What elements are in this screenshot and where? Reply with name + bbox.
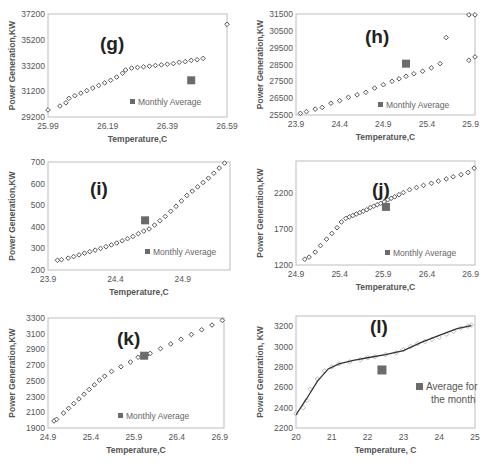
average-marker bbox=[141, 216, 149, 224]
x-tick-label: 24.9 bbox=[288, 269, 305, 279]
chart-panel-i: 20030040050060070023.924.424.9Temperatur… bbox=[7, 157, 230, 297]
y-tick-label: 700 bbox=[31, 157, 45, 167]
y-tick-label: 2100 bbox=[26, 407, 45, 417]
x-tick-label: 24.9 bbox=[175, 274, 192, 284]
legend-label: Monthly Average bbox=[126, 411, 189, 421]
y-axis-label: Power Generation,KW bbox=[255, 19, 265, 109]
y-tick-label: 31500 bbox=[269, 9, 293, 19]
y-axis-label: Power Generation,KW bbox=[7, 327, 17, 417]
legend: Monthly Average bbox=[145, 247, 216, 257]
legend: Monthly Average bbox=[385, 248, 456, 258]
x-axis-label: Temperature,C bbox=[356, 132, 415, 142]
x-tick-label: 22 bbox=[363, 432, 373, 442]
legend-swatch-icon bbox=[130, 99, 135, 104]
x-tick-label: 23.9 bbox=[288, 119, 305, 129]
y-tick-label: 28500 bbox=[269, 60, 293, 70]
y-tick-label: 3100 bbox=[26, 329, 45, 339]
x-tick-label: 25.4 bbox=[419, 119, 436, 129]
legend-label: Average for bbox=[426, 381, 478, 392]
y-tick-label: 2300 bbox=[26, 392, 45, 402]
x-axis-label: Temperature, C bbox=[355, 445, 417, 455]
legend-label: Monthly Average bbox=[386, 100, 449, 110]
legend: Monthly Average bbox=[130, 97, 201, 107]
legend-swatch-icon bbox=[385, 250, 390, 255]
legend-swatch-icon bbox=[378, 102, 383, 107]
x-axis-label: Temperature,C bbox=[356, 282, 415, 292]
x-tick-label: 26.4 bbox=[419, 269, 436, 279]
legend: Monthly Average bbox=[378, 100, 449, 110]
x-tick-label: 25 bbox=[470, 432, 480, 442]
y-tick-label: 500 bbox=[31, 200, 45, 210]
y-axis-label: Power Generation,KW bbox=[7, 170, 17, 260]
x-tick-label: 20 bbox=[291, 432, 301, 442]
y-tick-label: 2600 bbox=[274, 382, 293, 392]
y-axis-label: Power Generation,KW bbox=[255, 167, 265, 257]
x-tick-label: 26.9 bbox=[462, 269, 479, 279]
chart-panel-h: 2550026500275002850029500305003150023.92… bbox=[255, 9, 479, 142]
y-tick-label: 1700 bbox=[274, 224, 293, 234]
x-tick-label: 25.9 bbox=[375, 269, 392, 279]
x-tick-label: 24 bbox=[434, 432, 444, 442]
y-tick-label: 2700 bbox=[26, 360, 45, 370]
x-tick-label: 26.4 bbox=[169, 432, 186, 442]
y-tick-label: 37200 bbox=[21, 9, 45, 19]
chart-panel-j: 12001700220024.925.425.926.426.9Temperat… bbox=[255, 161, 479, 292]
y-tick-label: 3000 bbox=[274, 342, 293, 352]
x-tick-label: 25.4 bbox=[83, 432, 100, 442]
x-axis-label: Temperature,C bbox=[108, 134, 167, 144]
y-tick-label: 3200 bbox=[274, 321, 293, 331]
y-tick-label: 27500 bbox=[269, 76, 293, 86]
y-tick-label: 30500 bbox=[269, 26, 293, 36]
x-axis-label: Temperature,C bbox=[106, 445, 165, 455]
panel-label: (i) bbox=[90, 178, 108, 199]
x-tick-label: 25.99 bbox=[37, 121, 59, 131]
x-tick-label: 26.19 bbox=[97, 121, 119, 131]
y-tick-label: 400 bbox=[31, 222, 45, 232]
legend-label-cont: the month bbox=[431, 394, 475, 405]
figure-canvas: 292003120033200352003720025.9926.1926.39… bbox=[0, 0, 487, 464]
y-tick-label: 300 bbox=[31, 243, 45, 253]
legend-swatch-icon bbox=[416, 383, 423, 390]
y-tick-label: 26500 bbox=[269, 93, 293, 103]
legend-label: Monthly Average bbox=[153, 247, 216, 257]
x-tick-label: 26.39 bbox=[157, 121, 179, 131]
legend: Monthly Average bbox=[118, 411, 189, 421]
panel-label: (j) bbox=[372, 179, 390, 200]
y-tick-label: 600 bbox=[31, 179, 45, 189]
chart-panel-l: 220024002600280030003200202122232425Temp… bbox=[255, 316, 480, 455]
legend-swatch-icon bbox=[118, 413, 123, 418]
chart-panel-k: 1900210023002500270029003100330024.925.4… bbox=[7, 313, 228, 455]
panel-label: (h) bbox=[365, 26, 389, 47]
y-tick-label: 3300 bbox=[26, 313, 45, 323]
chart-panel-g: 292003120033200352003720025.9926.1926.39… bbox=[7, 9, 238, 144]
y-tick-label: 2500 bbox=[26, 376, 45, 386]
average-marker bbox=[377, 365, 386, 374]
legend-label: Monthly Average bbox=[138, 97, 201, 107]
y-tick-label: 35200 bbox=[21, 35, 45, 45]
average-marker bbox=[382, 203, 390, 211]
y-tick-label: 2800 bbox=[274, 362, 293, 372]
x-tick-label: 21 bbox=[327, 432, 337, 442]
x-tick-label: 23 bbox=[399, 432, 409, 442]
x-tick-label: 24.9 bbox=[40, 432, 57, 442]
panel-label: (g) bbox=[100, 33, 124, 54]
average-marker bbox=[402, 60, 410, 68]
x-tick-label: 25.9 bbox=[462, 119, 479, 129]
x-tick-label: 24.4 bbox=[107, 274, 124, 284]
average-marker bbox=[140, 352, 148, 360]
legend-swatch-icon bbox=[145, 249, 150, 254]
y-tick-label: 2400 bbox=[274, 403, 293, 413]
x-tick-label: 24.4 bbox=[331, 119, 348, 129]
y-tick-label: 33200 bbox=[21, 61, 45, 71]
y-axis-label: Power Generation,KW bbox=[7, 20, 17, 110]
x-tick-label: 26.59 bbox=[216, 121, 238, 131]
x-axis-label: Temperature,C bbox=[109, 287, 168, 297]
x-tick-label: 25.9 bbox=[126, 432, 143, 442]
y-tick-label: 29500 bbox=[269, 43, 293, 53]
x-tick-label: 24.9 bbox=[375, 119, 392, 129]
y-tick-label: 2900 bbox=[26, 344, 45, 354]
y-tick-label: 31200 bbox=[21, 86, 45, 96]
average-marker bbox=[187, 76, 195, 84]
panel-label: (k) bbox=[117, 328, 140, 349]
x-tick-label: 26.9 bbox=[211, 432, 228, 442]
